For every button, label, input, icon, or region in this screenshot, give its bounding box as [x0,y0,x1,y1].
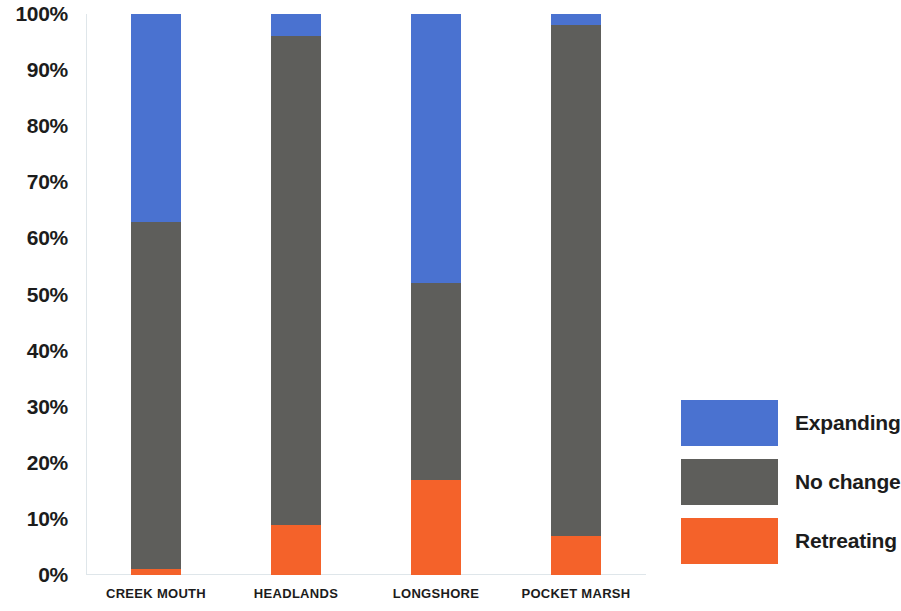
legend-item[interactable]: Retreating [681,518,881,564]
legend-label: Retreating [795,529,897,553]
bar-segment-expanding[interactable] [551,14,601,25]
bar-stack [131,14,181,575]
bar-segment-no-change[interactable] [271,36,321,524]
y-axis-tick-label: 0% [38,563,68,587]
bar-stack [551,14,601,575]
legend-swatch-expanding [681,400,778,446]
y-axis-tick-label: 20% [27,451,68,475]
bar-segment-no-change[interactable] [551,25,601,536]
y-axis-tick-label: 40% [27,339,68,363]
legend-swatch-retreating [681,518,778,564]
y-axis-tick-label: 90% [27,58,68,82]
legend-item[interactable]: No change [681,459,881,505]
legend-swatch-no-change [681,459,778,505]
bar-segment-no-change[interactable] [131,222,181,570]
bar-column[interactable] [551,14,601,575]
y-axis-tick-label: 100% [15,2,68,26]
y-axis-tick-label: 80% [27,114,68,138]
x-axis-tick-label: HEADLANDS [254,586,338,601]
bar-segment-no-change[interactable] [411,283,461,479]
chart-legend: ExpandingNo changeRetreating [681,400,881,577]
x-axis-tick-label: POCKET MARSH [521,586,630,601]
bar-segment-retreating[interactable] [411,480,461,575]
y-axis-tick-label: 60% [27,226,68,250]
y-axis: 100%90%80%70%60%50%40%30%20%10%0% [0,0,78,611]
bar-stack [271,14,321,575]
y-axis-tick-label: 30% [27,395,68,419]
bar-column[interactable] [131,14,181,575]
legend-label: No change [795,470,901,494]
bar-column[interactable] [411,14,461,575]
legend-label: Expanding [795,411,901,435]
bar-segment-expanding[interactable] [271,14,321,36]
bar-segment-retreating[interactable] [551,536,601,575]
x-axis-tick-label: LONGSHORE [393,586,479,601]
bar-segment-retreating[interactable] [271,525,321,575]
x-axis: CREEK MOUTHHEADLANDSLONGSHOREPOCKET MARS… [86,586,646,611]
bar-segment-retreating[interactable] [131,569,181,575]
bar-column[interactable] [271,14,321,575]
bar-segment-expanding[interactable] [411,14,461,283]
y-axis-tick-label: 50% [27,283,68,307]
plot-area [86,14,646,575]
y-axis-tick-label: 70% [27,170,68,194]
bar-segment-expanding[interactable] [131,14,181,222]
y-axis-tick-label: 10% [27,507,68,531]
x-axis-tick-label: CREEK MOUTH [106,586,206,601]
bar-stack [411,14,461,575]
y-axis-line [86,14,87,575]
legend-item[interactable]: Expanding [681,400,881,446]
